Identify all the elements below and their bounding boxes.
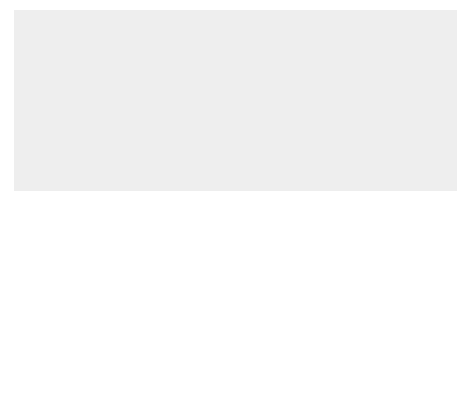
panel-bg-z: [14, 10, 457, 191]
